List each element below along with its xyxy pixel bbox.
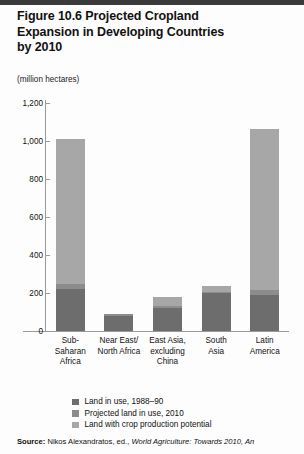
legend-label: Land in use, 1988–90 bbox=[85, 397, 164, 406]
legend-label: Projected land in use, 2010 bbox=[85, 409, 184, 418]
figure-page: Figure 10.6 Projected Cropland Expansion… bbox=[0, 0, 304, 454]
bar-3 bbox=[153, 297, 182, 331]
title-line-3: by 2010 bbox=[17, 40, 62, 54]
legend-item: Land with crop production potential bbox=[72, 419, 292, 431]
bar-segment bbox=[104, 316, 133, 331]
legend-label: Land with crop production potential bbox=[85, 420, 212, 429]
source-text: Nikos Alexandratos, ed., bbox=[45, 437, 131, 446]
bars-layer bbox=[0, 86, 304, 332]
bar-1 bbox=[56, 139, 85, 331]
bar-5 bbox=[250, 129, 279, 331]
legend-item: Land in use, 1988–90 bbox=[72, 396, 292, 408]
x-axis-label: SouthAsia bbox=[192, 336, 241, 357]
title-line-2: Expansion in Developing Countries bbox=[17, 25, 224, 39]
legend-swatch-land-in-use bbox=[72, 399, 79, 406]
x-axis-label: East Asia,excludingChina bbox=[143, 336, 192, 368]
page-title: Figure 10.6 Projected Cropland Expansion… bbox=[17, 9, 287, 56]
chart-legend: Land in use, 1988–90 Projected land in u… bbox=[72, 396, 292, 431]
bar-segment bbox=[202, 293, 231, 331]
bar-segment bbox=[250, 295, 279, 331]
source-label: Source: bbox=[17, 437, 45, 446]
x-axis-label: Sub-SaharanAfrica bbox=[46, 336, 95, 368]
bar-2 bbox=[104, 314, 133, 331]
bar-4 bbox=[202, 286, 231, 331]
chart-plot-area: 02004006008001,0001,200 Sub-SaharanAfric… bbox=[0, 86, 304, 341]
x-axis-label: Near East/North Africa bbox=[95, 336, 144, 357]
title-line-1: Figure 10.6 Projected Cropland bbox=[17, 9, 199, 23]
legend-item: Projected land in use, 2010 bbox=[72, 408, 292, 420]
x-axis-label: LatinAmerica bbox=[240, 336, 289, 357]
bar-segment bbox=[153, 308, 182, 331]
source-note: Source: Nikos Alexandratos, ed., World A… bbox=[17, 437, 297, 447]
bar-segment bbox=[56, 289, 85, 331]
legend-swatch-projected-land bbox=[72, 410, 79, 417]
top-rule-divider bbox=[0, 0, 304, 5]
legend-swatch-crop-potential bbox=[72, 422, 79, 429]
axis-units-note: (million hectares) bbox=[17, 75, 79, 84]
source-title-italic: World Agriculture: Towards 2010, An bbox=[131, 437, 254, 446]
